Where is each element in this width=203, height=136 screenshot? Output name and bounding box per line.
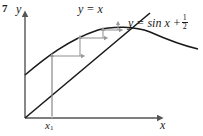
sine-curve-label: y = sin x +12: [128, 14, 188, 32]
fraction-numerator: 1: [182, 14, 188, 22]
cobweb-arrows: [52, 24, 120, 116]
x-axis-label: x: [160, 119, 165, 131]
x1-subscript: 1: [50, 124, 54, 132]
one-half-fraction: 12: [182, 14, 188, 32]
sine-curve-label-text: y = sin x +: [128, 16, 181, 30]
figure-container: 7 y x x1 y = x y = sin x +12: [0, 0, 203, 136]
identity-line-label: y = x: [78, 3, 103, 15]
problem-number: 7: [2, 3, 8, 14]
y-axis-label: y: [16, 3, 21, 15]
fraction-denominator: 2: [182, 22, 188, 31]
x1-tick-label: x1: [45, 120, 53, 132]
sine-curve: [25, 27, 198, 75]
